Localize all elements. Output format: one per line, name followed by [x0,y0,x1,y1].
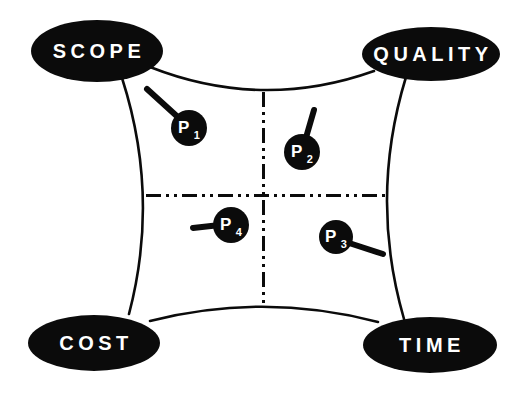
point-marker-p2: P 2 [284,110,320,170]
time-label: TIME [399,334,465,356]
p3-label-main: P [325,227,336,246]
project-constraints-quadrant-diagram: SCOPE QUALITY COST TIME P 1 [0,0,524,393]
diagram-canvas: SCOPE QUALITY COST TIME P 1 [0,0,524,393]
corner-node-quality: QUALITY [362,27,500,81]
p2-label-main: P [291,142,302,161]
point-marker-p1: P 1 [147,89,207,146]
quality-label: QUALITY [373,43,492,65]
p1-label-subscript: 1 [194,129,200,141]
edge-top [150,67,374,90]
p4-label-subscript: 4 [236,226,243,238]
scope-label: SCOPE [53,40,146,62]
edge-bottom [150,307,378,322]
corner-node-cost: COST [28,315,160,371]
point-marker-p4: P 4 [193,207,249,243]
p1-pin-line [147,89,180,119]
edge-right [387,77,406,319]
corner-node-scope: SCOPE [31,20,163,82]
p3-label-subscript: 3 [341,238,347,250]
cost-label: COST [59,332,133,354]
corner-node-time: TIME [363,317,497,373]
edge-left [122,78,143,314]
point-marker-p3: P 3 [319,220,383,254]
p1-label-main: P [178,118,189,137]
p2-label-subscript: 2 [307,153,313,165]
p4-label-main: P [220,215,231,234]
